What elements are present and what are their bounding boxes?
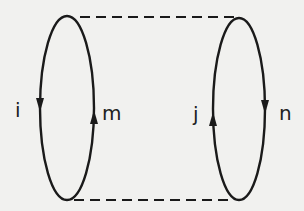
label-i: i bbox=[15, 100, 21, 120]
label-j: j bbox=[193, 104, 199, 124]
label-n: n bbox=[279, 103, 292, 123]
arrow-up-icon bbox=[90, 110, 98, 124]
arrow-down-icon bbox=[36, 98, 44, 112]
left-loop bbox=[40, 16, 94, 200]
label-m: m bbox=[102, 103, 121, 123]
diagram-canvas bbox=[0, 0, 304, 211]
arrow-down-icon bbox=[261, 100, 269, 114]
right-loop bbox=[213, 18, 265, 200]
arrow-up-icon bbox=[209, 112, 217, 126]
